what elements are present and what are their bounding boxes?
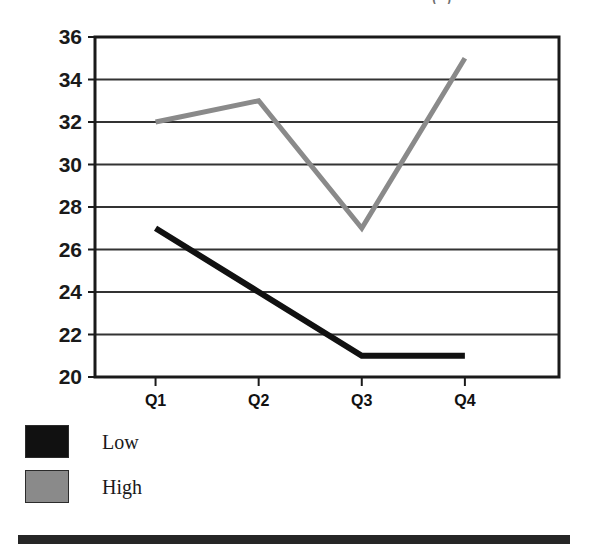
bottom-rule bbox=[18, 535, 570, 544]
svg-text:Q1: Q1 bbox=[145, 392, 166, 409]
svg-text:26: 26 bbox=[59, 238, 82, 261]
svg-text:24: 24 bbox=[59, 280, 83, 303]
svg-text:32: 32 bbox=[59, 110, 82, 133]
chart-legend: Low High bbox=[25, 419, 142, 509]
svg-text:36: 36 bbox=[59, 25, 82, 48]
legend-item-low[interactable]: Low bbox=[25, 419, 142, 464]
x-tick-labels: Q1Q2Q3Q4 bbox=[145, 392, 476, 409]
legend-label-high: High bbox=[102, 477, 142, 497]
legend-swatch-low bbox=[25, 425, 69, 458]
chart-figure: ( ) 202224262830323436 Q1Q2Q3Q4 Low High bbox=[0, 0, 589, 554]
legend-item-high[interactable]: High bbox=[25, 464, 142, 509]
svg-text:Q4: Q4 bbox=[454, 392, 475, 409]
svg-text:Q2: Q2 bbox=[248, 392, 269, 409]
svg-text:22: 22 bbox=[59, 323, 82, 346]
svg-text:Q3: Q3 bbox=[351, 392, 372, 409]
svg-text:30: 30 bbox=[59, 153, 82, 176]
legend-label-low: Low bbox=[102, 432, 139, 452]
plot-area: 202224262830323436 Q1Q2Q3Q4 bbox=[0, 0, 589, 420]
line-chart-svg: 202224262830323436 Q1Q2Q3Q4 bbox=[0, 0, 589, 420]
legend-swatch-high bbox=[25, 470, 69, 503]
svg-text:20: 20 bbox=[59, 365, 82, 388]
svg-text:28: 28 bbox=[59, 195, 83, 218]
svg-text:34: 34 bbox=[59, 68, 83, 91]
y-tick-labels: 202224262830323436 bbox=[59, 25, 83, 388]
